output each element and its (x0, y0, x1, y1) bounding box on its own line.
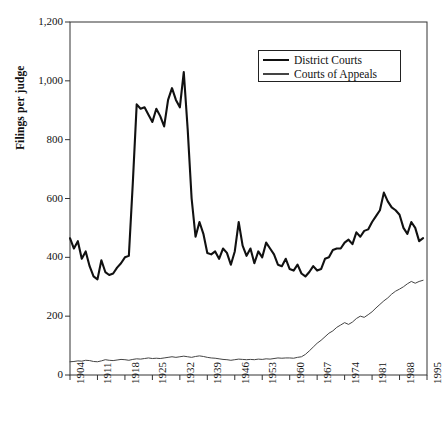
x-tick-label: 1918 (129, 362, 141, 384)
x-tick-label: 1960 (294, 362, 306, 384)
y-tick-label: 200 (15, 309, 63, 321)
x-tick-label: 1953 (266, 362, 278, 384)
y-tick-label: 600 (15, 192, 63, 204)
x-tick-label: 1995 (431, 362, 443, 384)
legend-line-swatch-courts-of-appeals (263, 73, 289, 74)
y-tick-label: 800 (15, 133, 63, 145)
x-tick-label: 1988 (404, 362, 416, 384)
legend-item-district-courts: District Courts (263, 53, 396, 67)
chart-legend: District Courts Courts of Appeals (258, 50, 401, 82)
x-tick-label: 1904 (74, 362, 86, 384)
x-tick-label: 1967 (321, 362, 333, 384)
legend-item-courts-of-appeals: Courts of Appeals (263, 67, 396, 81)
y-tick-label: 1,200 (15, 15, 63, 27)
legend-label-district-courts: District Courts (294, 53, 362, 67)
legend-label-courts-of-appeals: Courts of Appeals (294, 67, 377, 81)
filings-per-judge-chart: Filings per judge 02004006008001,0001,20… (0, 0, 446, 424)
y-tick-label: 1,000 (15, 74, 63, 86)
x-tick-label: 1932 (184, 362, 196, 384)
legend-line-swatch-district-courts (263, 59, 289, 61)
x-tick-label: 1911 (101, 362, 113, 384)
x-tick-label: 1981 (376, 362, 388, 384)
x-tick-label: 1946 (239, 362, 251, 384)
x-tick-label: 1939 (211, 362, 223, 384)
y-tick-label: 400 (15, 250, 63, 262)
x-tick-label: 1925 (156, 362, 168, 384)
x-tick-label: 1974 (349, 362, 361, 384)
y-tick-label: 0 (15, 368, 63, 380)
